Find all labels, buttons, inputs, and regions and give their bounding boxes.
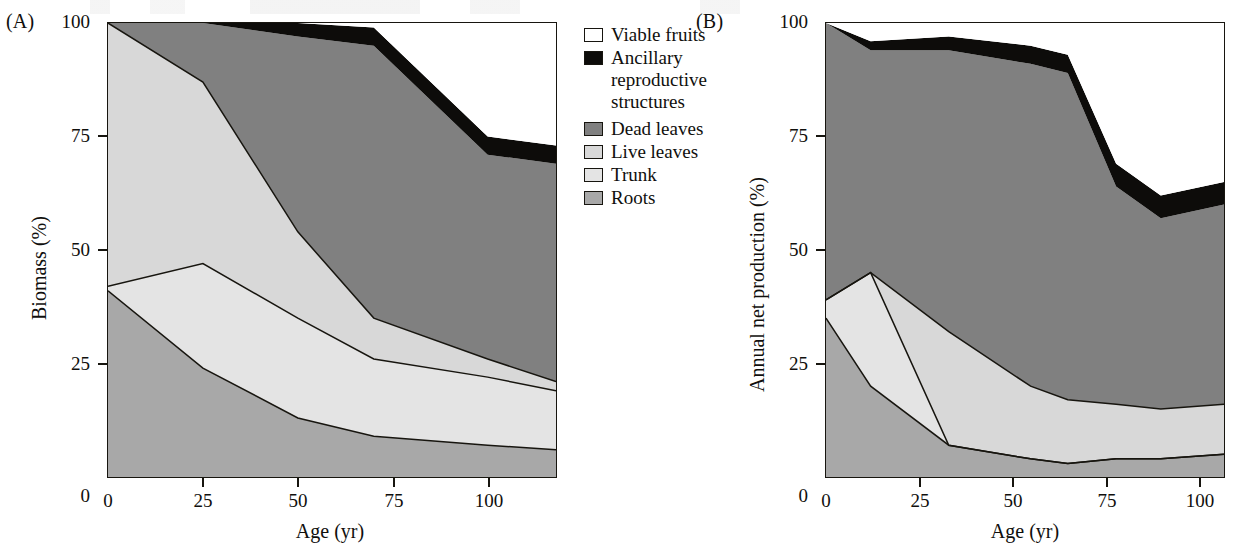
legend-swatch-dead-leaves-icon [584,122,603,136]
figure-root: (A) 100 75 50 25 0 0 25 50 75 100 Age (y… [0,0,1240,550]
panel-b-ytick-0: 0 [760,485,808,507]
legend-item-trunk[interactable]: Trunk [584,164,734,186]
legend-swatch-roots-icon [584,191,603,205]
panel-a-xtickmark-75 [393,478,395,487]
panel-a-plot-area [107,22,557,478]
legend-item-roots[interactable]: Roots [584,187,734,209]
panel-b-area-chart [826,23,1224,477]
panel-b-ytickmark-50 [816,249,825,251]
panel-b-ytick-100: 100 [760,11,808,33]
panel-b-xtickmark-50 [1012,478,1014,487]
legend-item-live-leaves[interactable]: Live leaves [584,141,734,163]
panel-b-xtick-25: 25 [911,490,930,512]
panel-a-xtick-75: 75 [385,490,404,512]
panel-a-xtickmark-25 [202,478,204,487]
legend-label-live-leaves: Live leaves [611,141,698,163]
legend-label-roots: Roots [611,187,655,209]
panel-a-xaxis-title: Age (yr) [296,520,364,543]
panel-a-yaxis-title: Biomass (%) [28,216,51,320]
legend-label-ancillary: Ancillary reproductive structures [611,47,707,113]
panel-a-ytickmark-75 [98,135,107,137]
legend-label-trunk: Trunk [611,164,657,186]
legend-swatch-trunk-icon [584,168,603,182]
panel-b-plot-area [825,22,1225,478]
panel-b-xtick-0: 0 [821,490,831,512]
panel-b-ytickmark-25 [816,363,825,365]
panel-b-xtickmark-100 [1199,478,1201,487]
panel-a-ytickmark-25 [98,363,107,365]
panel-a-ytick-75: 75 [42,125,90,147]
panel-b-xtickmark-75 [1106,478,1108,487]
panel-a-area-chart [108,23,556,477]
panel-a-xtick-0: 0 [103,490,113,512]
panel-b-xtickmark-25 [919,478,921,487]
panel-a-ytick-25: 25 [42,353,90,375]
panel-a-ytick-0: 0 [42,485,90,507]
panel-a-xtick-100: 100 [475,490,504,512]
legend-item-dead-leaves[interactable]: Dead leaves [584,118,734,140]
panel-a-xtick-50: 50 [289,490,308,512]
panel-b-xtick-75: 75 [1098,490,1117,512]
panel-a: (A) 100 75 50 25 0 0 25 50 75 100 Age (y… [0,0,620,550]
legend-label-viable-fruits: Viable fruits [611,24,705,46]
legend-swatch-ancillary-icon [584,51,603,65]
panel-a-tag: (A) [6,10,34,33]
panel-a-ytickmark-50 [98,249,107,251]
legend-swatch-live-leaves-icon [584,145,603,159]
panel-b-xtick-50: 50 [1004,490,1023,512]
panel-b-yaxis-title: Annual net production (%) [746,177,769,392]
legend-label-dead-leaves: Dead leaves [611,118,703,140]
legend: Viable fruits Ancillary reproductive str… [584,24,734,210]
legend-item-viable-fruits[interactable]: Viable fruits [584,24,734,46]
panel-a-xtickmark-100 [488,478,490,487]
panel-a-xtick-25: 25 [194,490,213,512]
panel-b-ytickmark-75 [816,135,825,137]
legend-swatch-viable-fruits-icon [584,28,603,42]
panel-a-ytick-100: 100 [42,11,90,33]
panel-b-ytick-75: 75 [760,125,808,147]
panel-b-xaxis-title: Age (yr) [991,520,1059,543]
legend-item-ancillary-reproductive-structures[interactable]: Ancillary reproductive structures [584,47,734,113]
panel-b-xtick-100: 100 [1186,490,1215,512]
panel-a-xtickmark-50 [297,478,299,487]
